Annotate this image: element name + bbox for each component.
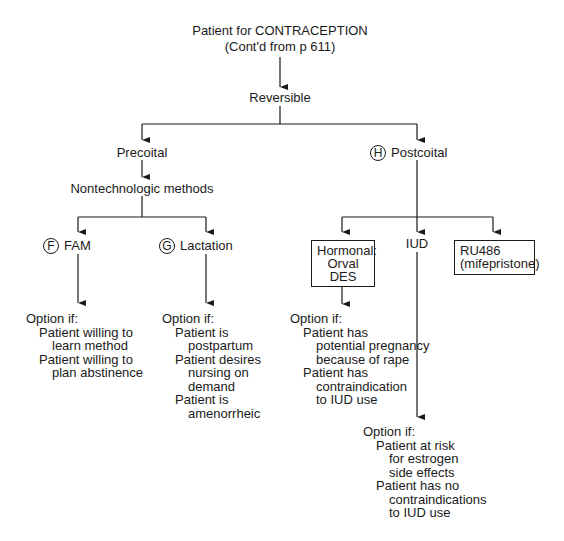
condition-line: because of rape xyxy=(290,353,429,367)
root-node: Patient for CONTRACEPTION (Cont'd from p… xyxy=(180,23,380,55)
condition-line: contraindications xyxy=(363,493,487,507)
postcoital-label: Postcoital xyxy=(391,145,447,160)
condition-line: plan abstinence xyxy=(26,366,143,380)
fam-options: Option if: Patient willing to learn meth… xyxy=(26,312,143,380)
condition-line: Patient willing to xyxy=(26,326,143,340)
condition-line: Patient is xyxy=(162,393,261,407)
hormonal-line: DES xyxy=(317,270,369,283)
postcoital-node: HPostcoital xyxy=(370,144,447,161)
condition-line: amenorrheic xyxy=(162,407,261,421)
condition-line: Patient has xyxy=(290,366,429,380)
badge-h-icon: H xyxy=(370,145,386,161)
badge-g-icon: G xyxy=(159,238,175,254)
iud-node: IUD xyxy=(397,236,437,252)
condition-line: contraindication xyxy=(290,380,429,394)
condition-line: demand xyxy=(162,380,261,394)
option-header: Option if: xyxy=(290,312,429,326)
condition-line: Patient willing to xyxy=(26,353,143,367)
condition-line: to IUD use xyxy=(290,393,429,407)
root-subtitle: (Cont'd from p 611) xyxy=(180,39,380,55)
condition-line: for estrogen xyxy=(363,452,487,466)
lactation-node: GLactation xyxy=(159,237,233,254)
condition-line: postpartum xyxy=(162,339,261,353)
lactation-options: Option if: Patient is postpartum Patient… xyxy=(162,312,261,420)
condition-line: side effects xyxy=(363,466,487,480)
badge-f-icon: F xyxy=(43,238,59,254)
precoital-node: Precoital xyxy=(102,145,182,161)
root-title: Patient for CONTRACEPTION xyxy=(180,23,380,39)
fam-label: FAM xyxy=(64,238,91,253)
condition-line: Patient desires xyxy=(162,353,261,367)
condition-line: potential pregnancy xyxy=(290,339,429,353)
nontechnologic-node: Nontechnologic methods xyxy=(62,181,222,197)
condition-line: learn method xyxy=(26,339,143,353)
ru486-line: (mifepristone) xyxy=(460,257,529,270)
condition-line: Patient has no xyxy=(363,479,487,493)
condition-line: Patient has xyxy=(290,326,429,340)
lactation-label: Lactation xyxy=(180,238,233,253)
condition-line: to IUD use xyxy=(363,506,487,520)
condition-line: Patient is xyxy=(162,326,261,340)
option-header: Option if: xyxy=(26,312,143,326)
iud-options: Option if: Patient at risk for estrogen … xyxy=(363,425,487,520)
hormonal-box: Hormonal: Orval DES xyxy=(311,240,375,287)
option-header: Option if: xyxy=(363,425,487,439)
condition-line: nursing on xyxy=(162,366,261,380)
ru486-box: RU486 (mifepristone) xyxy=(454,240,535,275)
option-header: Option if: xyxy=(162,312,261,326)
hormonal-options: Option if: Patient has potential pregnan… xyxy=(290,312,429,407)
fam-node: FFAM xyxy=(43,237,91,254)
reversible-node: Reversible xyxy=(240,90,320,106)
condition-line: Patient at risk xyxy=(363,439,487,453)
